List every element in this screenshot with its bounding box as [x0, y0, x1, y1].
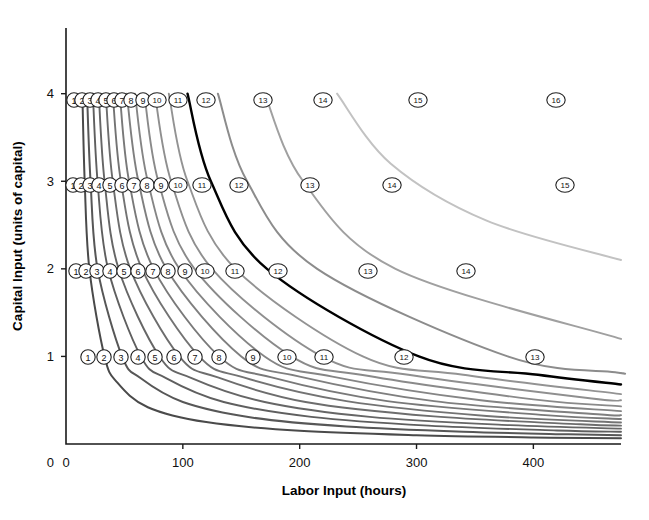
label-value: 13 [531, 353, 540, 362]
contour-label-12-at-capital-1: 12 [395, 350, 413, 364]
contour-label-8-at-capital-1: 8 [212, 350, 226, 364]
contour-label-10-at-capital-1: 10 [278, 350, 296, 364]
contour-label-12-at-capital-3: 12 [230, 178, 248, 192]
contour-label-15-at-capital-4: 15 [409, 93, 427, 107]
contour-label-9-at-capital-1: 9 [246, 350, 260, 364]
label-value: 2 [101, 353, 106, 363]
label-value: 7 [192, 353, 197, 363]
y-tick-label-1: 1 [47, 349, 54, 364]
label-value: 9 [250, 353, 255, 363]
contour-label-11-at-capital-4: 11 [169, 93, 187, 107]
contour-label-10-at-capital-2: 10 [196, 264, 214, 278]
label-value: 12 [235, 181, 244, 190]
y-tick-label-0: 0 [47, 455, 54, 470]
label-value: 2 [83, 267, 88, 277]
contour-label-14-at-capital-4: 14 [314, 93, 332, 107]
x-tick-label-100: 100 [172, 455, 194, 470]
x-axis-title: Labor Input (hours) [282, 483, 406, 498]
contour-label-7-at-capital-3: 7 [127, 178, 141, 192]
label-value: 9 [158, 181, 163, 191]
contour-label-6-at-capital-2: 6 [131, 264, 145, 278]
label-value: 7 [150, 267, 155, 277]
label-value: 6 [119, 181, 124, 191]
label-value: 5 [152, 353, 157, 363]
contour-label-9-at-capital-3: 9 [154, 178, 168, 192]
label-value: 3 [94, 267, 99, 277]
label-value: 14 [319, 96, 328, 105]
contour-label-10-at-capital-4: 10 [148, 93, 166, 107]
y-tick-label-3: 3 [47, 174, 54, 189]
label-value: 9 [182, 267, 187, 277]
label-value: 5 [107, 181, 112, 191]
label-value: 5 [121, 267, 126, 277]
contour-label-2-at-capital-1: 2 [97, 350, 111, 364]
label-value: 14 [462, 267, 471, 276]
x-tick-label-200: 200 [289, 455, 311, 470]
label-value: 11 [320, 353, 329, 362]
label-value: 8 [128, 96, 133, 106]
label-value: 10 [201, 267, 210, 276]
contour-label-13-at-capital-3: 13 [301, 178, 319, 192]
label-value: 15 [561, 181, 570, 190]
y-axis-title: Capital Input (units of capital) [10, 141, 25, 331]
label-value: 11 [231, 267, 240, 276]
contour-label-5-at-capital-1: 5 [148, 350, 162, 364]
label-value: 9 [140, 96, 145, 106]
label-value: 15 [414, 96, 423, 105]
contour-label-13-at-capital-4: 13 [254, 93, 272, 107]
contour-label-8-at-capital-3: 8 [140, 178, 154, 192]
x-tick-label-400: 400 [523, 455, 545, 470]
isoquant-chart-figure: 0100200300400 01234 12345678910111213141… [0, 0, 649, 520]
contour-label-13-at-capital-2: 13 [359, 264, 377, 278]
contour-label-15-at-capital-3: 15 [556, 178, 574, 192]
contour-label-3-at-capital-1: 3 [114, 350, 128, 364]
contour-label-11-at-capital-3: 11 [193, 178, 211, 192]
contour-label-4-at-capital-1: 4 [131, 350, 145, 364]
contour-label-8-at-capital-2: 8 [161, 264, 175, 278]
y-tick-label-2: 2 [47, 261, 54, 276]
contour-label-11-at-capital-2: 11 [226, 264, 244, 278]
contour-label-14-at-capital-3: 14 [383, 178, 401, 192]
label-value: 10 [153, 96, 162, 105]
x-tick-label-0: 0 [62, 455, 69, 470]
plot-background [0, 0, 649, 520]
contour-label-6-at-capital-1: 6 [167, 350, 181, 364]
contour-label-9-at-capital-2: 9 [178, 264, 192, 278]
contour-label-5-at-capital-2: 5 [117, 264, 131, 278]
label-value: 12 [274, 267, 283, 276]
label-value: 3 [118, 353, 123, 363]
label-value: 8 [165, 267, 170, 277]
contour-label-7-at-capital-1: 7 [188, 350, 202, 364]
contour-label-10-at-capital-3: 10 [169, 178, 187, 192]
label-value: 14 [388, 181, 397, 190]
label-value: 4 [96, 181, 101, 191]
label-value: 13 [364, 267, 373, 276]
contour-label-7-at-capital-2: 7 [146, 264, 160, 278]
label-value: 12 [400, 353, 409, 362]
label-value: 7 [131, 181, 136, 191]
label-value: 1 [73, 267, 78, 277]
contour-label-16-at-capital-4: 16 [547, 93, 565, 107]
contour-label-1-at-capital-1: 1 [81, 350, 95, 364]
contour-label-3-at-capital-2: 3 [90, 264, 104, 278]
label-value: 4 [107, 267, 112, 277]
label-value: 10 [283, 353, 292, 362]
label-value: 13 [259, 96, 268, 105]
label-value: 16 [552, 96, 561, 105]
contour-label-12-at-capital-4: 12 [197, 93, 215, 107]
label-value: 4 [135, 353, 140, 363]
label-value: 8 [144, 181, 149, 191]
label-value: 6 [171, 353, 176, 363]
label-value: 11 [174, 96, 183, 105]
label-value: 12 [202, 96, 211, 105]
label-value: 11 [198, 181, 207, 190]
label-value: 13 [306, 181, 315, 190]
y-tick-label-4: 4 [47, 86, 54, 101]
x-tick-label-300: 300 [406, 455, 428, 470]
contour-label-4-at-capital-2: 4 [103, 264, 117, 278]
contour-label-14-at-capital-2: 14 [457, 264, 475, 278]
contour-label-11-at-capital-1: 11 [315, 350, 333, 364]
label-value: 10 [174, 181, 183, 190]
contour-label-12-at-capital-2: 12 [269, 264, 287, 278]
label-value: 6 [135, 267, 140, 277]
